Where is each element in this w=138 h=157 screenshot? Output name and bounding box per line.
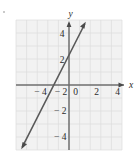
- x-tick-label--4: − 4: [34, 87, 47, 97]
- x-tick-label--2: − 2: [55, 87, 68, 97]
- x-axis-label: x: [128, 80, 134, 90]
- y-tick-label-4: 4: [60, 29, 65, 39]
- x-tick-label-0: 0: [73, 87, 78, 97]
- y-tick-label--2: − 2: [54, 106, 67, 116]
- coordinate-plane-figure: − 4 − 2 0 2 4 4 2 − 2 − 4 y x: [0, 0, 138, 157]
- x-tick-label-4: 4: [115, 87, 120, 97]
- y-axis-label: y: [67, 9, 73, 19]
- y-tick-label-2: 2: [60, 55, 65, 65]
- x-tick-label-2: 2: [94, 87, 99, 97]
- graph-canvas: − 4 − 2 0 2 4 4 2 − 2 − 4 y x: [0, 0, 138, 157]
- y-tick-label--4: − 4: [54, 132, 67, 142]
